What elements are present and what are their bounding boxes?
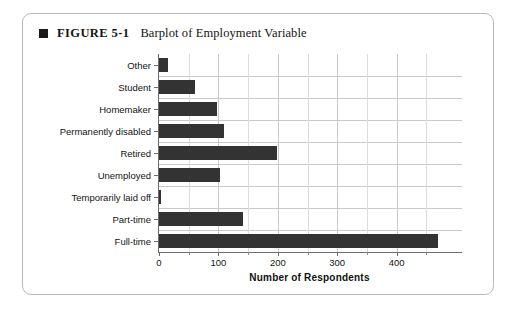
y-axis-tick-mark [154,131,158,132]
x-axis-tick-label: 400 [389,257,405,268]
x-axis-tick-mark [337,252,338,256]
horizontal-gridline [159,208,462,209]
horizontal-gridline [159,186,462,187]
y-axis-tick-label: Part-time [112,214,151,225]
chart-plot-area: 0100200300400Full-timePart-timeTemporari… [158,54,462,253]
x-axis-tick-label: 300 [329,257,345,268]
y-axis-tick-mark [154,175,158,176]
bar [159,190,161,203]
y-axis-tick-mark [154,87,158,88]
x-axis-title: Number of Respondents [158,272,461,283]
vertical-gridline [278,54,279,252]
vertical-gridline-minor [308,54,309,252]
x-axis-minor-tick-mark [248,252,249,255]
horizontal-gridline [159,142,462,143]
bar [159,234,438,247]
y-axis-tick-label: Permanently disabled [60,126,151,137]
y-axis-tick-label: Full-time [115,236,151,247]
y-axis-tick-label: Homemaker [99,104,151,115]
horizontal-gridline [159,98,462,99]
x-axis-tick-mark [218,252,219,256]
vertical-gridline-minor [426,54,427,252]
x-axis-tick-label: 0 [156,257,161,268]
y-axis-tick-label: Student [118,82,151,93]
x-axis-minor-tick-mark [426,252,427,255]
y-axis-tick-label: Retired [120,148,151,159]
x-axis-minor-tick-mark [367,252,368,255]
y-axis-tick-mark [154,219,158,220]
x-axis-tick-mark [278,252,279,256]
bar [159,212,243,225]
x-axis-minor-tick-mark [308,252,309,255]
y-axis-tick-mark [154,109,158,110]
x-axis-tick-label: 200 [270,257,286,268]
bar [159,168,220,181]
horizontal-gridline [159,120,462,121]
bar [159,124,224,137]
vertical-gridline [397,54,398,252]
bar [159,58,168,71]
vertical-gridline-minor [367,54,368,252]
vertical-gridline [337,54,338,252]
x-axis-tick-mark [397,252,398,256]
x-axis-tick-label: 100 [210,257,226,268]
bar [159,80,195,93]
y-axis-tick-mark [154,241,158,242]
y-axis-tick-label: Unemployed [98,170,151,181]
y-axis-tick-mark [154,197,158,198]
chart-plot-wrapper: 0100200300400Full-timePart-timeTemporari… [23,14,495,296]
horizontal-gridline [159,230,462,231]
y-axis-tick-mark [154,65,158,66]
y-axis-tick-label: Temporarily laid off [71,192,151,203]
horizontal-gridline [159,76,462,77]
bar [159,102,217,115]
y-axis-tick-mark [154,153,158,154]
bar [159,146,277,159]
y-axis-tick-label: Other [127,60,151,71]
x-axis-tick-mark [159,252,160,256]
horizontal-gridline [159,164,462,165]
x-axis-minor-tick-mark [189,252,190,255]
figure-container: FIGURE 5-1 Barplot of Employment Variabl… [22,13,494,295]
